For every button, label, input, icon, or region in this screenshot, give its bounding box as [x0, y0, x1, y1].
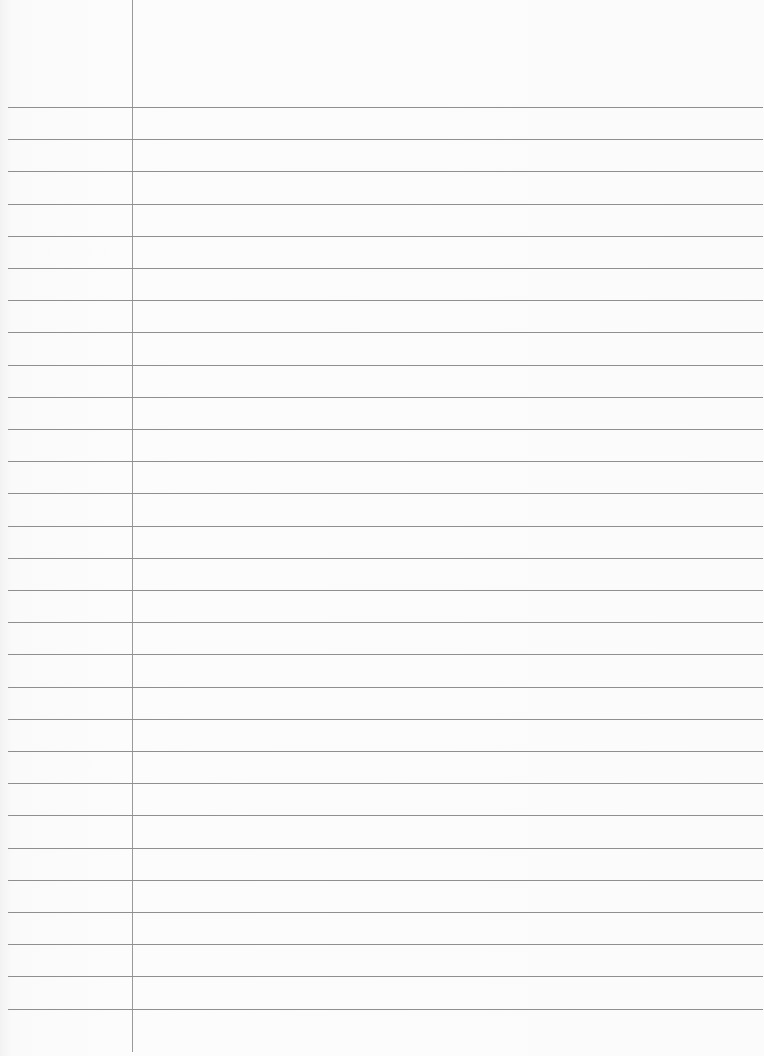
lined-paper [0, 0, 764, 1056]
ruled-line [8, 493, 763, 494]
ruled-line [8, 300, 763, 301]
ruled-line [8, 1009, 763, 1010]
ruled-line [8, 558, 763, 559]
ruled-line [8, 783, 763, 784]
ruled-line [8, 848, 763, 849]
ruled-line [8, 461, 763, 462]
ruled-line [8, 590, 763, 591]
ruled-line [8, 944, 763, 945]
ruled-line [8, 236, 763, 237]
ruled-line [8, 880, 763, 881]
ruled-line [8, 912, 763, 913]
ruled-line [8, 171, 763, 172]
ruled-line [8, 107, 763, 108]
ruled-line [8, 622, 763, 623]
ruled-line [8, 139, 763, 140]
ruled-line [8, 719, 763, 720]
ruled-line [8, 976, 763, 977]
ruled-line [8, 268, 763, 269]
ruled-line [8, 204, 763, 205]
ruled-line [8, 751, 763, 752]
ruled-line [8, 654, 763, 655]
ruled-line [8, 429, 763, 430]
ruled-line [8, 332, 763, 333]
ruled-line [8, 687, 763, 688]
ruled-line [8, 397, 763, 398]
ruled-line [8, 365, 763, 366]
ruled-line [8, 815, 763, 816]
ruled-line [8, 526, 763, 527]
